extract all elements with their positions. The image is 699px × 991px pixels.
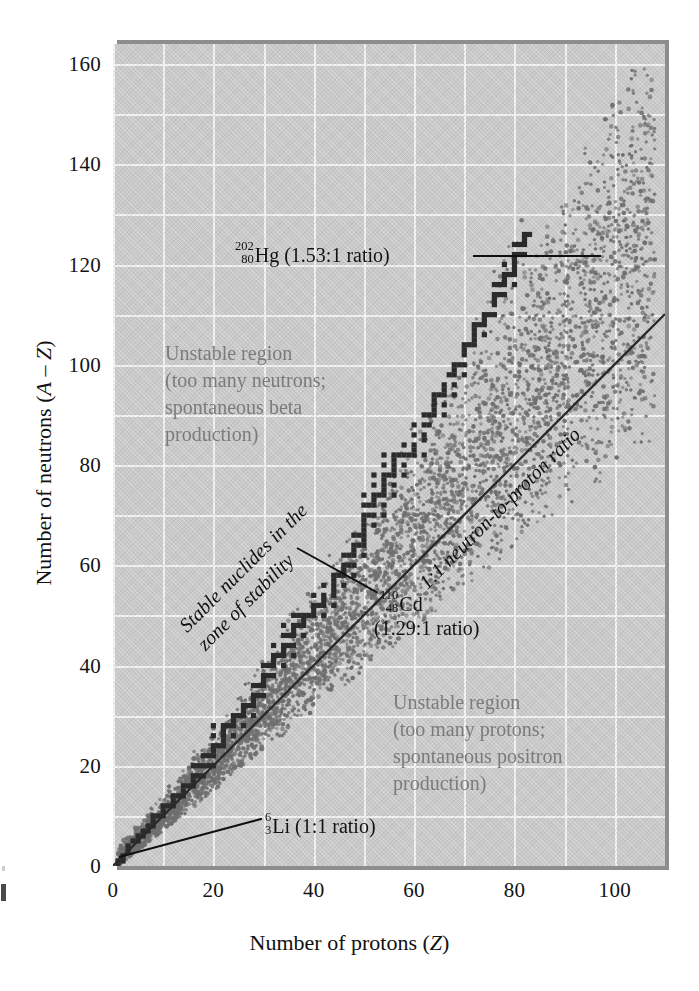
x-tick-label: 40 [303,878,325,903]
callout-li-mass-number: 6 [265,811,271,824]
y-tick-label: 20 [79,753,101,778]
leader-line-hg [473,255,601,257]
y-axis-title-suffix: ) [31,340,56,347]
y-tick-label: 140 [69,152,101,177]
callout-hg-atomic-number: 80 [235,253,254,266]
callout-cd-atomic-number: 48 [380,602,398,615]
scan-artifact-secondary [2,866,5,871]
plot-area: 1:1 neutron-to-proton ratio Stable nucli… [113,44,665,866]
callout-cd-nuclide-numbers: 110 48 [380,589,398,615]
callout-hg-nuclide-numbers: 202 80 [235,240,254,266]
callout-cd-symbol: Cd [399,593,422,615]
x-axis-title-symbol: Z [430,930,442,955]
figure-root: 1:1 neutron-to-proton ratio Stable nucli… [0,0,699,991]
callout-hg-symbol: Hg [255,244,279,266]
y-axis-title-dash: – [31,360,56,382]
callout-li-ratio-text: (1:1 ratio) [290,815,376,837]
x-axis-title: Number of protons (Z) [0,930,699,956]
callout-li-atomic-number: 3 [265,824,271,837]
y-tick-label: 120 [69,252,101,277]
callout-cd-110: 110 48 Cd [380,589,423,616]
callout-hg-mass-number: 202 [235,240,254,253]
callout-li-nuclide-numbers: 6 3 [265,811,271,837]
y-tick-label: 80 [79,453,101,478]
unstable-region-neutrons-note: Unstable region (too many neutrons; spon… [165,340,326,448]
y-tick-label: 100 [69,352,101,377]
y-axis-title-prefix: Number of neutrons ( [31,396,56,586]
x-tick-label: 0 [108,878,119,903]
x-axis-title-suffix: ) [442,930,449,955]
x-tick-label: 80 [504,878,526,903]
y-tick-label: 0 [90,854,101,879]
y-axis-title-symbol-z: Z [31,348,56,360]
callout-cd-mass-number: 110 [380,589,398,602]
y-axis-title-symbol-a: A [31,382,56,395]
ratio-line-1to1 [113,44,665,866]
x-tick-label: 100 [599,878,631,903]
y-axis-title: Number of neutrons (A – Z) [31,233,57,693]
callout-li-6: 6 3 Li (1:1 ratio) [265,811,376,838]
callout-hg-202: 202 80 Hg (1.53:1 ratio) [235,240,390,267]
x-axis-title-prefix: Number of protons ( [250,930,430,955]
scan-artifact [1,884,6,901]
callout-cd-ratio: (1.29:1 ratio) [374,616,480,640]
x-tick-label: 60 [403,878,425,903]
y-tick-label: 40 [79,653,101,678]
unstable-region-protons-note: Unstable region (too many protons; spont… [393,689,562,797]
y-tick-label: 60 [79,553,101,578]
callout-li-symbol: Li [272,815,290,837]
callout-hg-ratio-text: (1.53:1 ratio) [279,244,390,266]
x-tick-label: 20 [203,878,225,903]
y-tick-label: 160 [69,52,101,77]
